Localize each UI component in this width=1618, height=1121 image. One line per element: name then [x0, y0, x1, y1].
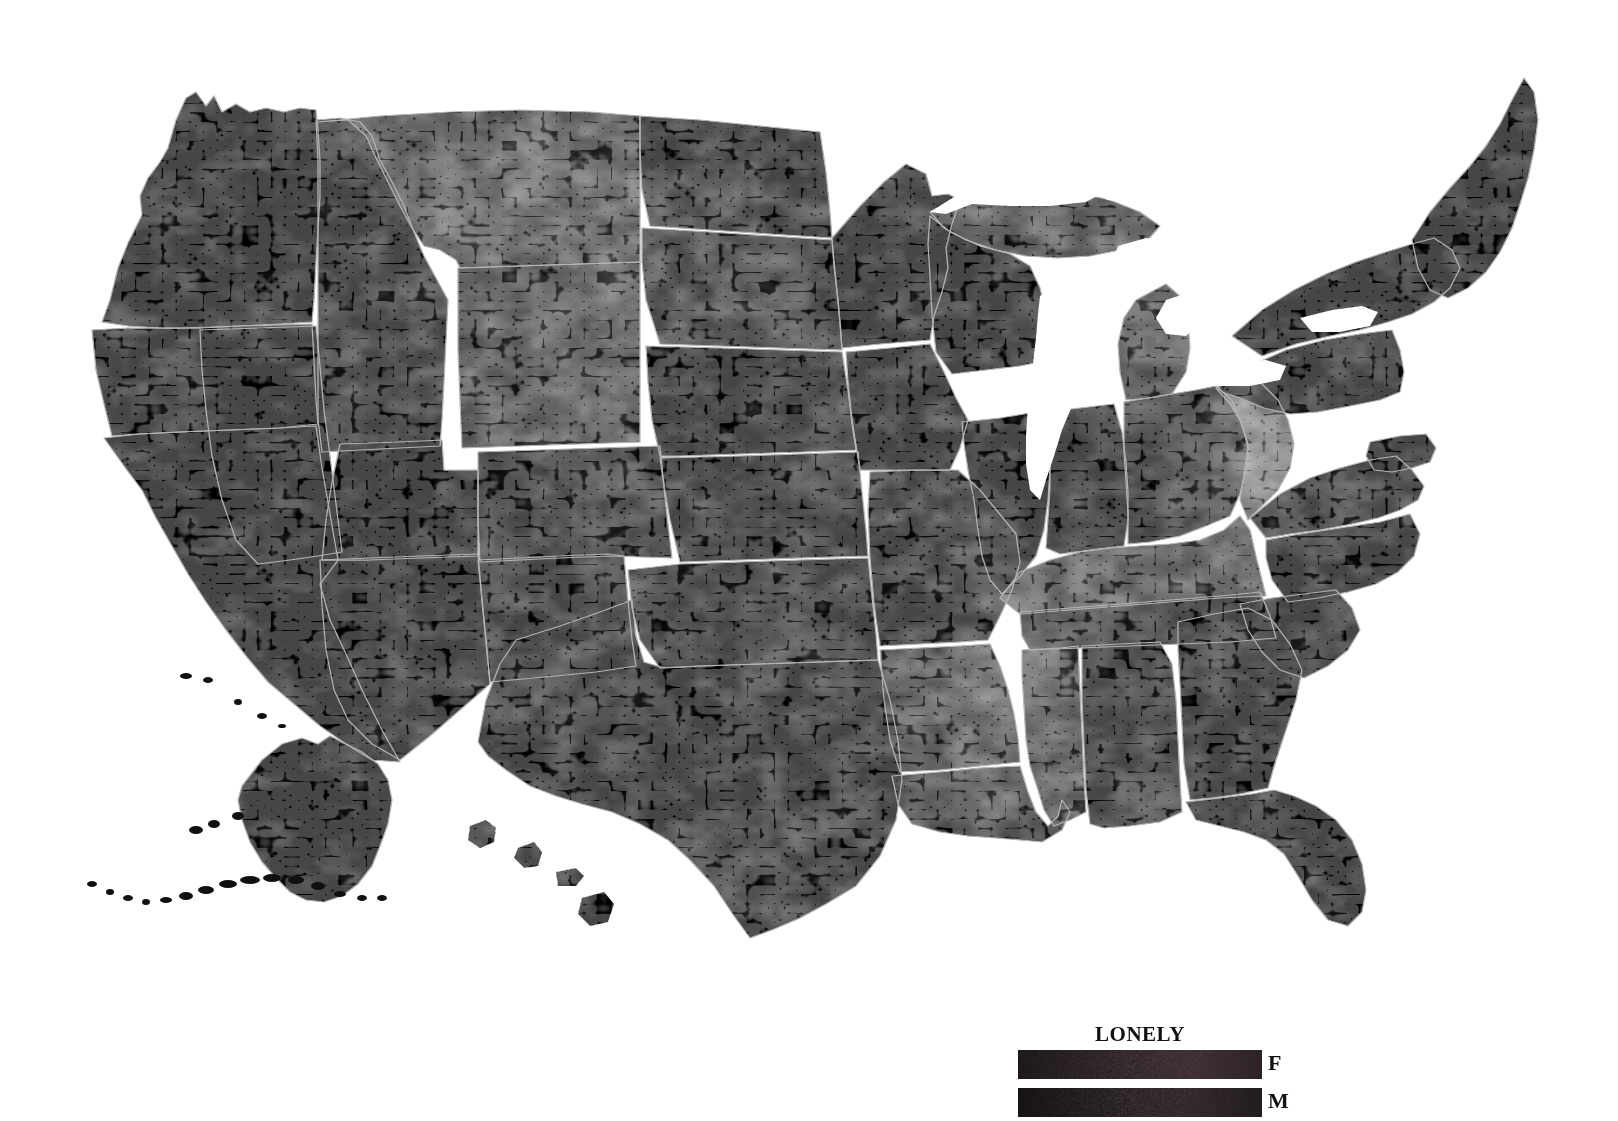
legend-row-male: M — [1018, 1088, 1298, 1117]
legend-gradient-bar-male — [1018, 1088, 1262, 1117]
map-legend: LONELY F M — [1018, 1022, 1308, 1118]
legend-bar-texture-female — [1018, 1050, 1262, 1079]
choropleth-map-figure: LONELY F M — [0, 0, 1618, 1121]
legend-gradient-bar-female — [1018, 1050, 1262, 1079]
legend-title: LONELY — [1018, 1022, 1262, 1046]
map-outline-layer — [0, 0, 1618, 1121]
legend-bar-texture-male — [1018, 1088, 1262, 1117]
legend-label-male: M — [1268, 1086, 1289, 1116]
legend-label-female: F — [1268, 1048, 1281, 1078]
legend-row-female: F — [1018, 1050, 1298, 1079]
